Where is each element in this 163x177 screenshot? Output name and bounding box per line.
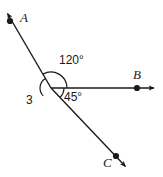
figure-canvas	[0, 0, 163, 177]
angle-label-120: 120°	[59, 54, 84, 66]
angle-label-45: 45°	[64, 91, 82, 103]
angle-arc-3	[40, 78, 45, 95]
point-label-b: B	[133, 68, 141, 81]
point-dot-B	[134, 85, 140, 91]
point-label-c: C	[103, 156, 112, 169]
point-dot-C	[113, 153, 119, 159]
point-dot-A	[7, 18, 13, 24]
angle-label-3: 3	[26, 94, 33, 106]
point-label-a: A	[20, 11, 28, 24]
ray-to-A-segment	[8, 14, 52, 89]
geometry-figure: A B C 120° 45° 3	[0, 0, 163, 177]
